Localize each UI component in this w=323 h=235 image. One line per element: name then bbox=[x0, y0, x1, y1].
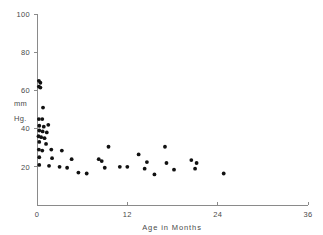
data-point bbox=[137, 152, 141, 156]
data-point bbox=[172, 168, 176, 172]
chart-canvas: 20406080100 0122436 mm Hg. Age in Months bbox=[0, 0, 323, 235]
data-point bbox=[40, 117, 44, 121]
data-point bbox=[47, 164, 51, 168]
y-tick-labels: 20406080100 bbox=[17, 10, 30, 172]
x-tick-label: 24 bbox=[213, 210, 222, 219]
data-point bbox=[49, 148, 53, 152]
data-point bbox=[43, 136, 47, 140]
data-point bbox=[37, 129, 41, 133]
data-point bbox=[44, 142, 48, 146]
data-point bbox=[37, 163, 41, 167]
y-tick-label: 100 bbox=[17, 10, 30, 19]
x-axis-title: Age in Months bbox=[142, 223, 202, 232]
data-point bbox=[103, 166, 107, 170]
data-point bbox=[107, 145, 111, 149]
data-point bbox=[42, 125, 46, 129]
data-point bbox=[46, 123, 50, 127]
data-point bbox=[40, 149, 44, 153]
data-point bbox=[85, 172, 89, 176]
data-point bbox=[165, 161, 169, 165]
data-point bbox=[153, 173, 157, 177]
data-point bbox=[70, 157, 74, 161]
data-point bbox=[58, 165, 62, 169]
data-point bbox=[189, 158, 193, 162]
data-point bbox=[37, 124, 41, 128]
y-tick-label: 60 bbox=[21, 86, 30, 95]
data-point bbox=[65, 166, 69, 170]
y-tick-label: 80 bbox=[21, 48, 30, 57]
data-point bbox=[77, 171, 81, 175]
x-tick-label: 36 bbox=[304, 210, 313, 219]
data-point bbox=[60, 149, 64, 153]
data-point bbox=[37, 140, 41, 144]
data-point bbox=[39, 135, 43, 139]
y-tick-label: 40 bbox=[21, 124, 30, 133]
data-point bbox=[143, 167, 147, 171]
data-point bbox=[163, 145, 167, 149]
data-point bbox=[37, 117, 41, 121]
data-point bbox=[145, 160, 149, 164]
data-point bbox=[50, 156, 54, 160]
data-point bbox=[100, 159, 104, 163]
data-point bbox=[37, 148, 41, 152]
y-axis-label-line1: mm bbox=[14, 99, 27, 108]
x-tick-label: 0 bbox=[35, 210, 39, 219]
data-point bbox=[41, 130, 45, 134]
y-tick-label: 20 bbox=[21, 163, 30, 172]
scatter-chart-figure: 20406080100 0122436 mm Hg. Age in Months bbox=[0, 0, 323, 235]
x-tick-labels: 0122436 bbox=[35, 210, 313, 219]
data-point bbox=[41, 106, 45, 110]
y-axis bbox=[34, 14, 37, 205]
data-points-layer bbox=[37, 79, 226, 176]
data-point bbox=[38, 81, 42, 85]
x-tick-label: 12 bbox=[123, 210, 132, 219]
data-point bbox=[37, 155, 41, 159]
data-point bbox=[118, 165, 122, 169]
data-point bbox=[45, 131, 49, 135]
data-point bbox=[195, 161, 199, 165]
data-point bbox=[222, 172, 226, 176]
y-axis-label-line2: Hg. bbox=[14, 114, 27, 123]
data-point bbox=[125, 165, 129, 169]
data-point bbox=[193, 167, 197, 171]
x-axis bbox=[37, 202, 308, 205]
data-point bbox=[38, 86, 42, 90]
